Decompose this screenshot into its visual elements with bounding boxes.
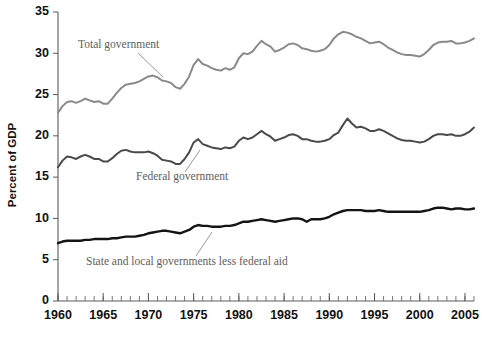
x-tick-label-1960: 1960: [44, 308, 72, 322]
x-tick-label-1980: 1980: [225, 308, 253, 322]
y-tick-label-5: 5: [42, 252, 49, 266]
x-axis-major-ticks: [58, 293, 465, 301]
x-tick-label-1965: 1965: [89, 308, 117, 322]
leader-line-state-and-local-governments-less-federal-aid: [196, 232, 212, 256]
y-axis-group: 05101520253035: [35, 4, 58, 307]
y-tick-label-30: 30: [35, 46, 49, 60]
x-axis-minor-ticks: [58, 296, 474, 301]
y-tick-label-25: 25: [35, 87, 49, 101]
y-tick-label-15: 15: [35, 169, 49, 183]
y-tick-label-10: 10: [35, 211, 49, 225]
chart-container: 05101520253035 1960196519701975198019851…: [0, 0, 482, 344]
series-line-state-and-local-governments-less-federal-aid: [58, 208, 474, 244]
leader-line-total-government: [138, 53, 163, 77]
x-axis-group: 1960196519701975198019851990199520002005: [44, 293, 479, 322]
x-tick-label-2005: 2005: [451, 308, 479, 322]
x-tick-label-1990: 1990: [315, 308, 343, 322]
x-axis-tick-labels: 1960196519701975198019851990199520002005: [44, 308, 479, 322]
x-tick-label-1975: 1975: [180, 308, 208, 322]
series-label-federal-government: Federal government: [136, 170, 229, 183]
y-axis-tick-marks: [53, 12, 58, 301]
series-annotations-layer: Total governmentFederal governmentState …: [78, 38, 288, 268]
y-tick-label-0: 0: [42, 293, 49, 307]
y-tick-label-20: 20: [35, 128, 49, 142]
y-tick-label-35: 35: [35, 4, 49, 18]
x-tick-label-1970: 1970: [135, 308, 163, 322]
series-line-federal-government: [58, 119, 474, 168]
data-series-layer: [58, 32, 474, 243]
y-axis-title: Percent of GDP: [6, 122, 18, 207]
x-tick-label-1995: 1995: [361, 308, 389, 322]
x-tick-label-2000: 2000: [406, 308, 434, 322]
y-axis-tick-labels: 05101520253035: [35, 4, 49, 307]
line-chart-plot: 05101520253035 1960196519701975198019851…: [0, 0, 482, 344]
series-label-state-and-local-governments-less-federal-aid: State and local governments less federal…: [86, 255, 288, 268]
x-tick-label-1985: 1985: [270, 308, 298, 322]
series-label-total-government: Total government: [78, 38, 160, 51]
leader-line-federal-government: [185, 150, 200, 172]
